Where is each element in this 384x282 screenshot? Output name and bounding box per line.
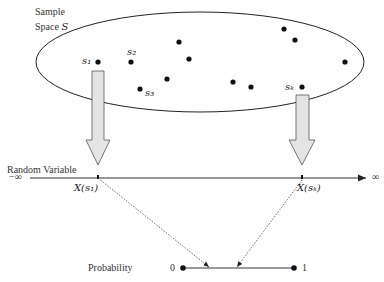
mapping-arrow-sk <box>289 95 315 165</box>
outcome-points <box>95 26 347 91</box>
probability-label: Probability <box>88 262 132 273</box>
probability-min-label: 0 <box>170 262 175 273</box>
pos-infinity-label: ∞ <box>372 171 379 182</box>
sample-space-label-1: Sample <box>35 6 65 17</box>
sample-space-label-2: Space S <box>35 21 68 32</box>
outcome-label-s2: s₂ <box>127 46 136 57</box>
probability-zero-point <box>180 265 186 271</box>
tick-x-sk <box>301 175 303 179</box>
dotted-map-sk <box>237 180 302 267</box>
sample-space-word: Space <box>35 21 59 32</box>
dotted-map-s1 <box>98 178 209 267</box>
outcome-label-s1: s₁ <box>82 55 91 66</box>
mapping-arrow-s1 <box>86 71 110 165</box>
probability-one-point <box>291 265 297 271</box>
x-of-sk-label: X(sₖ) <box>297 182 321 193</box>
sample-space-symbol: S <box>61 21 68 32</box>
x-of-s1-label: X(s₁) <box>74 182 98 193</box>
outcome-label-s3: s₃ <box>145 87 154 98</box>
probability-max-label: 1 <box>302 262 307 273</box>
neg-infinity-label: −∞ <box>9 171 22 182</box>
outcome-label-sk: sₖ <box>285 81 294 92</box>
diagram-canvas <box>0 0 384 282</box>
